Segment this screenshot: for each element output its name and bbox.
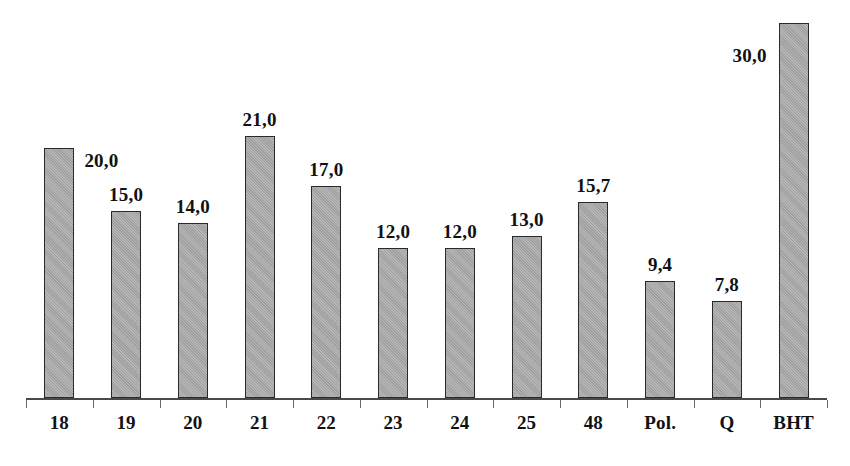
bar (44, 148, 74, 398)
category-label: Pol. (644, 412, 676, 434)
axis-tick (226, 400, 227, 408)
bar (712, 301, 742, 399)
category-label: 19 (116, 412, 135, 434)
axis-tick (427, 400, 428, 408)
category-label: 20 (183, 412, 202, 434)
axis-tick (760, 400, 761, 408)
category-label: 18 (50, 412, 69, 434)
axis-tick (93, 400, 94, 408)
bar (245, 136, 275, 399)
category-label: 48 (584, 412, 603, 434)
axis-tick (560, 400, 561, 408)
bar-value-label: 7,8 (715, 274, 739, 296)
bar-value-label: 12,0 (443, 221, 477, 243)
bar-value-label: 15,0 (109, 184, 143, 206)
bar-chart: 20,015,014,021,017,012,012,013,015,79,47… (0, 0, 850, 466)
category-label: 25 (517, 412, 536, 434)
bar (578, 202, 608, 398)
category-label: Q (719, 412, 734, 434)
bar (378, 248, 408, 398)
bar-value-label: 13,0 (510, 209, 544, 231)
bar (445, 248, 475, 398)
bar-value-label: 30,0 (733, 45, 767, 67)
axis-tick (360, 400, 361, 408)
category-label: 24 (450, 412, 469, 434)
bar-value-label: 21,0 (243, 109, 277, 131)
category-label: 23 (383, 412, 402, 434)
bar-value-label: 12,0 (376, 221, 410, 243)
axis-tick (694, 400, 695, 408)
bar (779, 23, 809, 398)
bar-value-label: 20,0 (84, 150, 118, 172)
bar-value-label: 14,0 (176, 196, 210, 218)
bar-value-label: 17,0 (309, 159, 343, 181)
axis-tick (293, 400, 294, 408)
bar-value-label: 9,4 (648, 254, 672, 276)
axis-tick (627, 400, 628, 408)
axis-tick (26, 400, 27, 408)
bar (512, 236, 542, 399)
bar (645, 281, 675, 399)
axis-tick (160, 400, 161, 408)
bar-value-label: 15,7 (576, 175, 610, 197)
plot-area (26, 8, 827, 399)
axis-tick (827, 400, 828, 408)
bar (311, 186, 341, 399)
category-label: 21 (250, 412, 269, 434)
axis-tick (493, 400, 494, 408)
bar (111, 211, 141, 399)
category-label: 22 (317, 412, 336, 434)
bar (178, 223, 208, 398)
category-label: BHT (773, 412, 814, 434)
